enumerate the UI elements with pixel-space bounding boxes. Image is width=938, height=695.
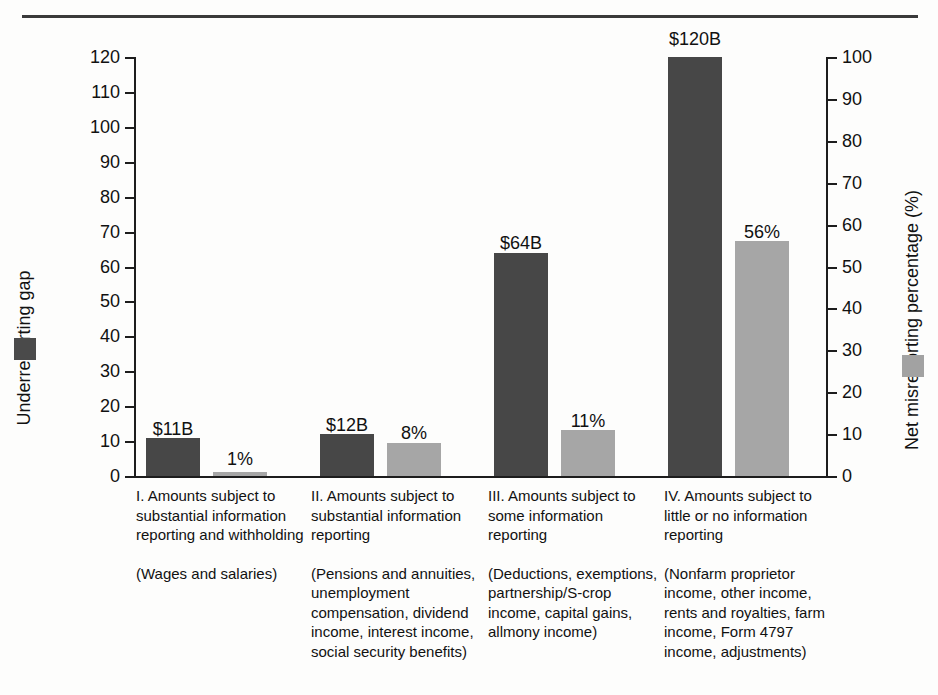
- bar-label-net-misreporting-group-2: 8%: [387, 423, 441, 444]
- legend-swatch-net-misreporting-percentage: [902, 355, 924, 377]
- category-caption-1: I. Amounts subject to substantial inform…: [136, 486, 304, 583]
- right-tick-90: [828, 99, 837, 101]
- category-2-heading: II. Amounts subject to substantial infor…: [311, 486, 483, 545]
- left-ticklabel-110: 110: [91, 83, 120, 101]
- bar-net-misreporting-group-4: [735, 241, 789, 476]
- bar-label-underreporting-gap-group-2: $12B: [320, 415, 374, 436]
- right-ticklabel-0: 0: [842, 467, 852, 485]
- category-1-examples: (Wages and salaries): [136, 564, 304, 584]
- bar-net-misreporting-group-3: [561, 430, 615, 476]
- left-ticklabel-30: 30: [100, 362, 120, 380]
- left-ticklabel-10: 10: [100, 432, 120, 450]
- category-1-heading: I. Amounts subject to substantial inform…: [136, 486, 304, 545]
- left-tick-60: [125, 267, 134, 269]
- left-ticklabel-50: 50: [100, 292, 120, 310]
- right-tick-30: [828, 350, 837, 352]
- bar-label-net-misreporting-group-3: 11%: [561, 411, 615, 432]
- left-ticklabel-80: 80: [100, 188, 120, 206]
- left-axis-line: [134, 57, 136, 478]
- bar-label-net-misreporting-group-4: 56%: [735, 222, 789, 243]
- category-2-examples: (Pensions and annuities, unemployment co…: [311, 564, 483, 662]
- bar-underreporting-gap-group-1: [146, 438, 200, 476]
- bar-label-underreporting-gap-group-1: $11B: [146, 419, 200, 440]
- left-ticklabel-0: 0: [110, 467, 120, 485]
- right-ticklabel-80: 80: [842, 132, 862, 150]
- left-ticklabel-60: 60: [100, 258, 120, 276]
- left-tick-70: [125, 232, 134, 234]
- category-4-examples: (Nonfarm proprietor income, other income…: [664, 564, 840, 662]
- left-ticklabel-120: 120: [90, 48, 120, 66]
- category-3-heading: III. Amounts subject to some information…: [488, 486, 660, 545]
- right-ticklabel-40: 40: [842, 299, 862, 317]
- left-ticklabel-20: 20: [100, 397, 120, 415]
- right-ticklabel-90: 90: [842, 90, 862, 108]
- right-ticklabel-20: 20: [842, 383, 862, 401]
- right-ticklabel-10: 10: [842, 425, 862, 443]
- bar-underreporting-gap-group-4: [668, 57, 722, 476]
- right-ticklabel-50: 50: [842, 258, 862, 276]
- bar-underreporting-gap-group-2: [320, 434, 374, 476]
- right-ticklabel-70: 70: [842, 174, 862, 192]
- bar-net-misreporting-group-2: [387, 443, 441, 477]
- left-tick-20: [125, 406, 134, 408]
- bar-label-net-misreporting-group-1: 1%: [213, 449, 267, 470]
- category-3-examples: (Deductions, exemptions, partnership/S-c…: [488, 564, 660, 642]
- bar-label-underreporting-gap-group-4: $120B: [668, 29, 722, 50]
- right-ticklabel-60: 60: [842, 216, 862, 234]
- left-ticklabel-40: 40: [100, 327, 120, 345]
- right-ticklabel-100: 100: [842, 48, 872, 66]
- left-tick-0: [125, 476, 134, 478]
- right-tick-80: [828, 141, 837, 143]
- right-tick-100: [828, 57, 837, 59]
- left-tick-40: [125, 336, 134, 338]
- right-tick-50: [828, 267, 837, 269]
- top-horizontal-rule: [22, 15, 918, 18]
- right-tick-0: [828, 476, 837, 478]
- left-tick-120: [125, 57, 134, 59]
- right-ticklabel-30: 30: [842, 341, 862, 359]
- left-tick-90: [125, 162, 134, 164]
- bar-underreporting-gap-group-3: [494, 253, 548, 477]
- left-tick-80: [125, 197, 134, 199]
- category-caption-4: IV. Amounts subject to little or no info…: [664, 486, 840, 661]
- bar-label-underreporting-gap-group-3: $64B: [494, 233, 548, 254]
- figure-container: Underreporting gap Net misreporting perc…: [0, 0, 938, 695]
- right-tick-60: [828, 225, 837, 227]
- category-caption-3: III. Amounts subject to some information…: [488, 486, 660, 642]
- legend-swatch-underreporting-gap: [14, 338, 36, 360]
- left-tick-100: [125, 127, 134, 129]
- bottom-axis-line: [134, 476, 828, 478]
- left-tick-10: [125, 441, 134, 443]
- left-ticklabel-90: 90: [100, 153, 120, 171]
- plot-area: 120 110 100 90 80 70 60 50 40 30 20 10 0…: [134, 57, 828, 478]
- left-tick-30: [125, 371, 134, 373]
- left-tick-110: [125, 92, 134, 94]
- left-ticklabel-70: 70: [100, 223, 120, 241]
- right-tick-20: [828, 392, 837, 394]
- right-axis-title: Net misreporting percentage (%): [902, 190, 923, 450]
- category-4-heading: IV. Amounts subject to little or no info…: [664, 486, 840, 545]
- bar-net-misreporting-group-1: [213, 472, 267, 476]
- left-tick-50: [125, 301, 134, 303]
- left-ticklabel-100: 100: [90, 118, 120, 136]
- category-caption-2: II. Amounts subject to substantial infor…: [311, 486, 483, 661]
- right-tick-70: [828, 183, 837, 185]
- right-tick-40: [828, 308, 837, 310]
- right-tick-10: [828, 434, 837, 436]
